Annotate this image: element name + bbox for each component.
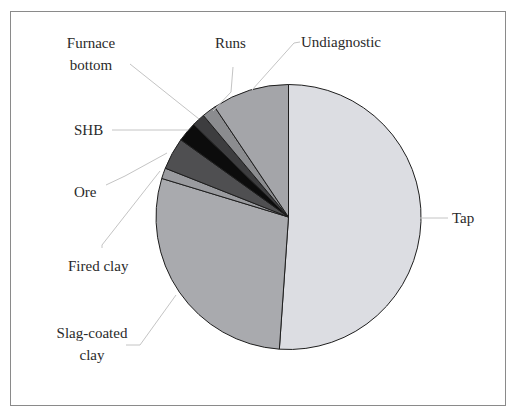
label-slag-line2: clay — [52, 344, 132, 366]
label-runs: Runs — [215, 32, 246, 54]
label-slag-coated-clay: Slag-coated clay — [52, 322, 132, 366]
label-shb: SHB — [74, 119, 103, 141]
pie-slices — [156, 84, 421, 349]
label-slag-line1: Slag-coated — [52, 322, 132, 344]
leader-line-furnace-bottom — [130, 64, 199, 119]
leader-line-ore — [106, 153, 167, 185]
label-ore: Ore — [74, 181, 97, 203]
pie-slice-tap — [279, 84, 421, 349]
leader-line-undiagnostic — [252, 42, 300, 90]
label-furnace-bottom: Furnace bottom — [60, 32, 122, 76]
label-furnace-line1: Furnace — [60, 32, 122, 54]
label-fired-clay: Fired clay — [68, 255, 128, 277]
label-undiagnostic: Undiagnostic — [301, 31, 381, 53]
leader-line-slag-coated-clay — [126, 295, 176, 345]
label-tap: Tap — [452, 207, 474, 229]
label-furnace-line2: bottom — [60, 54, 122, 76]
